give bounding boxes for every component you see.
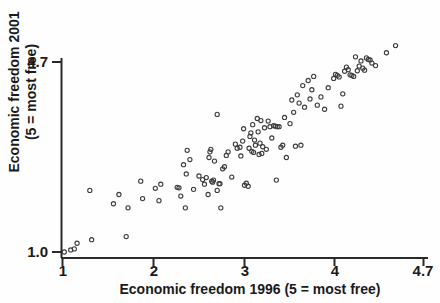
x-tick-label-4: 4 [327, 262, 343, 279]
data-point [373, 63, 377, 67]
data-point [312, 74, 316, 78]
y-tick-label-bottom: 1.0 [10, 243, 48, 260]
data-point [219, 206, 223, 210]
data-point [310, 88, 314, 92]
data-point [183, 206, 187, 210]
data-point [302, 105, 306, 109]
y-axis-title-line1: Economic freedom 2001 [6, 0, 23, 192]
y-axis-title: Economic freedom 2001 (5 = most free) [6, 0, 42, 192]
data-point [297, 101, 301, 105]
data-point [181, 163, 185, 167]
data-point [384, 51, 388, 55]
data-point [332, 76, 336, 80]
data-point [266, 119, 270, 123]
data-point [90, 238, 94, 242]
data-point [206, 192, 210, 196]
data-point [88, 188, 92, 192]
data-point [202, 182, 206, 186]
data-point [111, 202, 115, 206]
data-point [159, 182, 163, 186]
data-point [326, 86, 330, 90]
scatter-plot-figure: 4.7 1.0 1 2 3 4 4.7 Economic freedom 199… [0, 0, 440, 303]
data-point [292, 110, 296, 114]
data-point [215, 188, 219, 192]
data-point [62, 250, 66, 254]
data-point [212, 159, 216, 163]
data-point [153, 186, 157, 190]
data-point [270, 136, 274, 140]
data-point [253, 143, 257, 147]
data-point [252, 138, 256, 142]
data-point [179, 194, 183, 198]
data-point [256, 130, 260, 134]
data-point [241, 139, 245, 143]
y-axis-title-line2: (5 = most free) [23, 0, 40, 192]
data-point [241, 127, 245, 131]
data-point-group [62, 43, 397, 254]
data-point [215, 112, 219, 116]
data-point [185, 148, 189, 152]
data-point [230, 175, 234, 179]
data-point [306, 78, 310, 82]
data-point [197, 174, 201, 178]
data-point [290, 98, 294, 102]
data-point [295, 93, 299, 97]
data-point [124, 234, 128, 238]
data-point [157, 199, 161, 203]
data-point [204, 175, 208, 179]
x-tick-label-2: 2 [146, 262, 162, 279]
data-point [322, 107, 326, 111]
data-point [293, 144, 297, 148]
plot-canvas [0, 0, 440, 303]
data-point [264, 147, 268, 151]
data-point [126, 206, 130, 210]
axis-ticks [52, 62, 424, 266]
x-axis-title: Economic freedom 1996 (5 = most free) [60, 281, 440, 297]
data-point [308, 97, 312, 101]
x-tick-label-1: 1 [55, 262, 71, 279]
data-point [139, 179, 143, 183]
data-point [315, 103, 319, 107]
data-point [339, 104, 343, 108]
data-point [188, 157, 192, 161]
data-point [274, 178, 278, 182]
data-point [353, 55, 357, 59]
axes [61, 58, 428, 258]
data-point [239, 154, 243, 158]
data-point [191, 187, 195, 191]
data-point [319, 95, 323, 99]
data-point [75, 241, 79, 245]
data-point [355, 69, 359, 73]
data-point [251, 123, 255, 127]
data-point [284, 155, 288, 159]
data-point [359, 59, 363, 63]
data-point [393, 43, 397, 47]
data-point [233, 142, 237, 146]
data-point [282, 115, 286, 119]
data-point [288, 122, 292, 126]
data-point [341, 92, 345, 96]
data-point [207, 155, 211, 159]
data-point [259, 118, 263, 122]
data-point [184, 172, 188, 176]
data-point [226, 150, 230, 154]
data-point [299, 143, 303, 147]
x-tick-label-3: 3 [237, 262, 253, 279]
data-point [262, 126, 266, 130]
data-point [301, 84, 305, 88]
x-tick-label-5: 4.7 [406, 262, 440, 279]
data-point [140, 196, 144, 200]
data-point [117, 192, 121, 196]
